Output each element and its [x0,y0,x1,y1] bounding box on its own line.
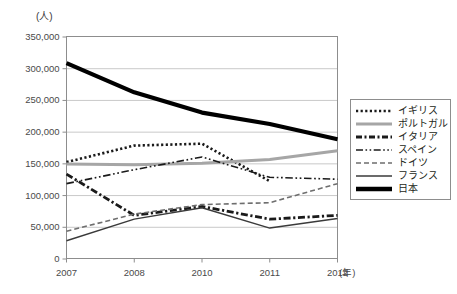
y-tick-label: 250,000 [25,94,59,105]
legend-label-igirisu: イギリス [398,105,438,117]
y-tick-label: 150,000 [25,158,59,169]
legend-item: スペイン [356,143,445,156]
legend-swatch-supein [356,144,392,156]
x-tick-label: 2008 [124,267,145,278]
legend-item: フランス [356,169,445,182]
y-tick-label: 50,000 [30,221,59,232]
legend-swatch-porutogaru [356,118,392,130]
data-series-line [67,157,338,184]
y-tick-label: 200,000 [25,126,59,137]
data-series-line [67,63,338,139]
y-tick-label: 0 [54,253,59,264]
y-tick-label: 100,000 [25,190,59,201]
x-axis-unit-label: (年) [339,267,355,278]
x-axis-ticks: 20072008201020112012 [56,259,348,278]
legend-swatch-itaria [356,131,392,143]
gridlines [67,69,338,228]
y-tick-label: 300,000 [25,63,59,74]
chart-figure: (人) 050,000100,000150,000200,000250,0003… [0,0,457,294]
legend-label-supein: スペイン [398,144,437,156]
x-tick-label: 2011 [260,267,280,278]
legend-label-porutogaru: ポルトガル [398,118,448,130]
legend-item: ドイツ [356,156,445,169]
data-series-line [67,174,338,219]
x-tick-label: 2007 [56,267,77,278]
legend-item: イタリア [356,130,445,143]
y-tick-label: 350,000 [25,31,59,42]
legend-swatch-doitsu [356,157,392,169]
plot-area-frame [67,37,338,259]
legend-item: 日本 [356,182,445,195]
legend-label-furansu: フランス [398,170,438,182]
legend-swatch-nihon [356,183,392,195]
chart-legend: イギリス ポルトガル イタリア スペイン ドイツ フランス 日本 [350,99,451,200]
legend-item: ポルトガル [356,117,445,130]
data-series-line [67,208,338,241]
legend-item: イギリス [356,104,445,117]
legend-label-doitsu: ドイツ [398,157,428,169]
legend-label-nihon: 日本 [398,183,418,195]
data-series-group [67,63,338,241]
legend-swatch-igirisu [356,105,392,117]
y-axis-ticks: 050,000100,000150,000200,000250,000300,0… [25,31,66,264]
legend-swatch-furansu [356,170,392,182]
x-tick-label: 2010 [191,267,212,278]
legend-label-itaria: イタリア [398,131,438,143]
